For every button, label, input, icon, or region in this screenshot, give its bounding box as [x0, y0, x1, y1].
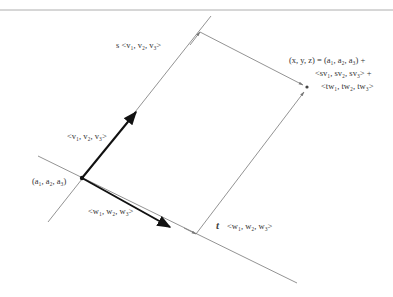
label-origin-point: (a₁, a₂, a₃)	[32, 176, 66, 186]
origin-point	[80, 176, 84, 180]
result-point	[305, 85, 308, 88]
label-scaled-v: s <v₁, v₂, v₃>	[116, 40, 161, 50]
arrow-tw	[184, 228, 196, 234]
label-equation-line2: <sv₁, sv₂, sv₃> +	[315, 68, 372, 78]
vector-w	[82, 178, 170, 227]
vector-v	[82, 112, 136, 178]
arrow-sv	[190, 32, 200, 45]
label-vector-v: <v₁, v₂, v₃>	[67, 131, 107, 141]
label-scaled-w-coef: t	[216, 219, 219, 231]
diagram-canvas	[0, 0, 393, 297]
line-tw-to-result	[196, 92, 304, 234]
line-sv-to-result	[200, 32, 303, 85]
line-w-direction	[38, 156, 297, 283]
label-scaled-w: <w₁, w₂, w₃>	[227, 221, 272, 231]
label-equation-line3: <tw₁, tw₂, tw₃>	[321, 81, 373, 91]
label-equation-line1: (x, y, z) = (a₁, a₂, a₃) +	[289, 55, 365, 65]
plane-vector-diagram: s <v₁, v₂, v₃> (x, y, z) = (a₁, a₂, a₃) …	[0, 0, 393, 297]
label-vector-w: <w₁, w₂, w₃>	[88, 206, 133, 216]
